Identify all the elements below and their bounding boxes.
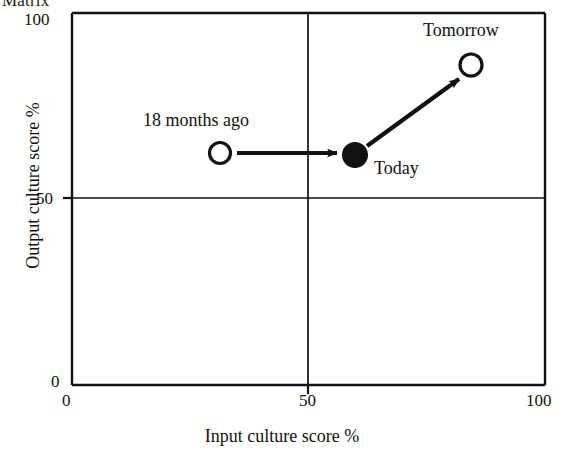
x-tick-label-0: 0	[62, 391, 71, 411]
data-point-past-marker	[210, 143, 231, 164]
plot-canvas	[0, 0, 564, 455]
annotation-tomorrow: Tomorrow	[423, 20, 499, 41]
axis-ticks	[63, 198, 308, 394]
x-tick-label-50: 50	[299, 391, 316, 411]
chart-figure: Matrix	[0, 0, 564, 455]
x-tick-label-100: 100	[526, 391, 552, 411]
data-point-tomorrow-marker	[460, 54, 482, 76]
data-point-today-marker	[343, 143, 367, 167]
x-axis-title: Input culture score %	[0, 426, 564, 447]
y-tick-label-0: 0	[51, 372, 60, 392]
annotation-past: 18 months ago	[143, 110, 249, 131]
annotation-today: Today	[374, 158, 419, 179]
y-axis-title: Output culture score %	[23, 91, 44, 281]
arrow-today-to-tomorrow	[367, 79, 459, 146]
y-tick-label-100: 100	[24, 10, 50, 30]
